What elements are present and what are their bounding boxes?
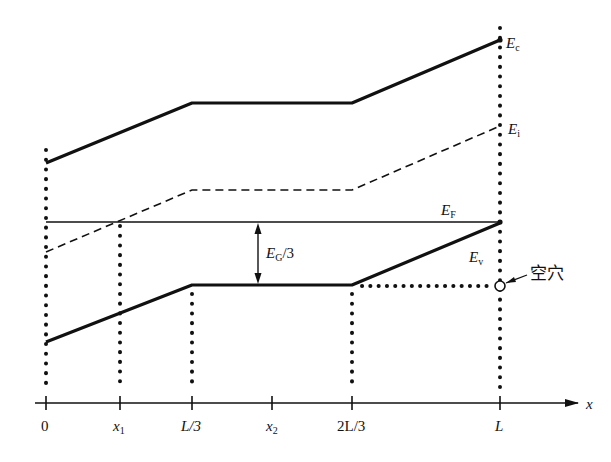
label-hole: 空穴 — [530, 263, 564, 283]
hole-circle — [495, 281, 505, 291]
tick-label-2L3: 2L/3 — [337, 418, 365, 434]
band-Ev — [46, 223, 500, 342]
label-Ev: Ev — [468, 249, 483, 267]
Ec-end-dot — [497, 37, 502, 42]
arrow-down-icon — [255, 273, 262, 284]
label-EG3: EG/3 — [265, 245, 294, 263]
tick-label-x2: x2 — [265, 418, 278, 436]
label-Ec: Ec — [505, 35, 520, 53]
axis-label-x: x — [585, 396, 593, 412]
vertical-guides — [46, 28, 500, 390]
energy-band-diagram: 0 x1 L/3 x2 2L/3 L x Ec Ei EF Ev EG/3 空穴 — [0, 0, 611, 462]
EF-end-dot — [497, 219, 502, 224]
tick-label-x1: x1 — [112, 418, 125, 436]
tick-label-0: 0 — [41, 418, 49, 434]
band-Ei — [46, 126, 500, 252]
arrow-up-icon — [255, 223, 262, 234]
label-Ei: Ei — [507, 121, 520, 139]
tick-label-L3: L/3 — [180, 418, 201, 434]
gap-arrow — [255, 223, 262, 284]
label-EF: EF — [440, 202, 456, 220]
hole-pointer-arrow-icon — [506, 277, 516, 283]
tick-label-L: L — [494, 418, 503, 434]
band-Ec — [46, 40, 500, 163]
